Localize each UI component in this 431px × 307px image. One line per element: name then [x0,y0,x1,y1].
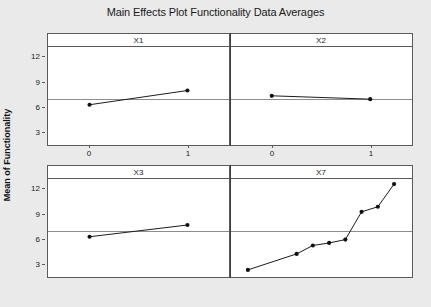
data-point [327,241,331,245]
plot-area-x3 [47,179,230,278]
panel-grid: X1 X2 01 01 X3 [47,33,413,281]
y-tick-label: 3 [0,261,45,269]
series-line [90,225,188,237]
y-tick-label: 6 [0,236,45,244]
series-x7 [230,179,412,277]
y-tick-label: 6 [0,104,45,112]
y-tick-label: 9 [0,211,45,219]
data-point [246,268,250,272]
y-axis-ticks-row2: 36912 [0,165,45,278]
panel-label-x7: X7 [230,165,413,179]
series-line [248,184,394,270]
panel-label-x1: X1 [47,33,230,47]
data-point [295,252,299,256]
plot-area-x7 [230,179,413,278]
data-point [368,97,372,101]
data-point [185,223,189,227]
y-tick-label: 12 [0,53,45,61]
chart-canvas: Main Effects Plot Functionality Data Ave… [0,0,431,307]
panel-divider-bottom [230,165,231,278]
y-tick-label: 12 [0,185,45,193]
plot-area-x2 [230,47,413,146]
series-x3 [48,179,229,277]
data-point [87,235,91,239]
x-tick-mark [371,145,372,148]
data-point [376,205,380,209]
x-tick-label: 0 [270,149,274,158]
plot-area-x1 [47,47,230,146]
panel-x1: X1 [47,33,230,146]
series-x1 [48,47,229,145]
x-tick-mark [89,145,90,148]
data-point [87,103,91,107]
panel-x3: X3 [47,165,230,278]
x-axis-ticks-x2: 01 [230,146,413,160]
data-point [270,94,274,98]
data-point [343,237,347,241]
series-line [90,91,188,105]
panel-x7: X7 [230,165,413,278]
x-tick-label: 0 [87,149,91,158]
data-point [185,88,189,92]
x-tick-mark [272,145,273,148]
y-axis-ticks-row1: 36912 [0,33,45,146]
series-line [272,96,370,99]
panel-row-top: X1 X2 01 01 [47,33,413,146]
x-tick-label: 1 [369,149,373,158]
x-tick-mark [188,145,189,148]
series-x2 [230,47,412,145]
panel-label-x2: X2 [230,33,413,47]
panel-label-x3: X3 [47,165,230,179]
y-tick-label: 3 [0,129,45,137]
chart-title: Main Effects Plot Functionality Data Ave… [0,6,431,18]
x-tick-label: 1 [186,149,190,158]
data-point [360,210,364,214]
x-axis-ticks-x1: 01 [47,146,230,160]
panel-x2: X2 [230,33,413,146]
data-point [392,182,396,186]
y-tick-label: 9 [0,79,45,87]
panel-row-bottom: X3 X7 01 145678910 [47,165,413,278]
panel-divider-top [230,33,231,146]
data-point [311,243,315,247]
